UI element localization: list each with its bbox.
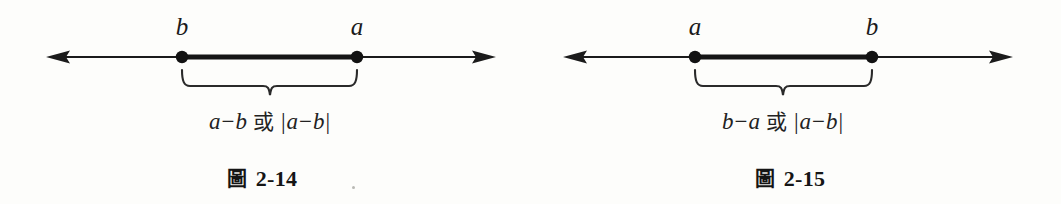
caption-number: 2-14 <box>247 166 298 191</box>
caption-number: 2-15 <box>775 166 826 191</box>
caption-cjk-label: 圖 <box>227 167 247 191</box>
expr-operator: − <box>220 109 235 134</box>
abs-minuend: a <box>800 109 812 134</box>
expr-minuend: a <box>209 109 221 134</box>
figure-caption: 圖2-15 <box>755 168 826 190</box>
figure-2-14: b a a−b或|a−b| 圖2-14 <box>0 0 530 204</box>
point-dot-b <box>866 51 878 63</box>
abs-minuend: a <box>287 109 299 134</box>
point-label-right: b <box>866 14 879 39</box>
distance-expression: a−b或|a−b| <box>209 110 331 133</box>
abs-open-bar: | <box>793 109 800 134</box>
point-dot-a <box>689 51 701 63</box>
abs-open-bar: | <box>280 109 287 134</box>
point-label-left: b <box>176 14 189 39</box>
expr-conjunction: 或 <box>247 110 280 134</box>
abs-close-bar: | <box>837 109 844 134</box>
point-dot-a <box>351 51 363 63</box>
scan-speck <box>352 186 355 189</box>
expr-operator: − <box>733 109 748 134</box>
figure-2-15: a b b−a或|a−b| 圖2-15 <box>530 0 1061 204</box>
expr-minuend: b <box>722 109 734 134</box>
caption-cjk-label: 圖 <box>755 167 775 191</box>
point-dot-b <box>176 51 188 63</box>
figure-page: b a a−b或|a−b| 圖2-14 a b b−a或|a−b| 圖2-15 <box>0 0 1061 204</box>
abs-subtrahend: b <box>313 109 325 134</box>
underbrace <box>695 70 872 95</box>
point-label-left: a <box>689 14 702 39</box>
underbrace <box>182 70 357 95</box>
figure-caption: 圖2-14 <box>227 168 298 190</box>
abs-operator: − <box>811 109 826 134</box>
abs-operator: − <box>298 109 313 134</box>
abs-close-bar: | <box>324 109 331 134</box>
point-label-right: a <box>351 14 364 39</box>
expr-subtrahend: b <box>235 109 247 134</box>
expr-subtrahend: a <box>748 109 760 134</box>
expr-conjunction: 或 <box>760 110 793 134</box>
distance-expression: b−a或|a−b| <box>722 110 844 133</box>
abs-subtrahend: b <box>826 109 838 134</box>
